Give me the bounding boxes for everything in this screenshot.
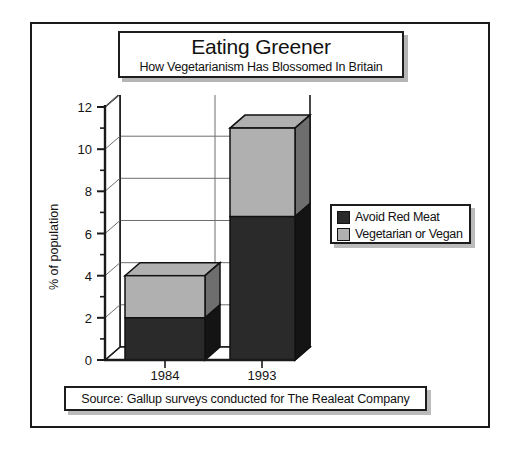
y-tick-label-10: 10 bbox=[78, 142, 92, 157]
chart-legend: Avoid Red Meat Vegetarian or Vegan bbox=[330, 204, 471, 244]
y-tick-label-8: 8 bbox=[85, 184, 92, 199]
legend-swatch-vegetarian-or-vegan bbox=[337, 228, 350, 241]
legend-swatch-avoid-red-meat bbox=[337, 211, 350, 224]
y-axis-title: % of population bbox=[47, 204, 61, 290]
bar-group-1993[interactable] bbox=[230, 115, 310, 360]
chart-plot-area: 12 10 8 6 4 2 0 % of population bbox=[40, 95, 330, 380]
y-tick-label-6: 6 bbox=[85, 227, 92, 242]
source-caption-text: Source: Gallup surveys conducted for The… bbox=[81, 392, 409, 406]
x-tick-label-1993: 1993 bbox=[248, 368, 277, 380]
legend-label-vegetarian-or-vegan: Vegetarian or Vegan bbox=[355, 227, 463, 241]
x-tick-label-1984: 1984 bbox=[151, 368, 180, 380]
x-axis: 1984 1993 bbox=[105, 360, 295, 380]
y-tick-label-2: 2 bbox=[85, 311, 92, 326]
chart-title: Eating Greener bbox=[120, 35, 402, 59]
title-box: Eating Greener How Vegetarianism Has Blo… bbox=[118, 31, 404, 78]
y-axis: 12 10 8 6 4 2 0 % of population bbox=[47, 100, 105, 368]
legend-item-vegetarian-or-vegan[interactable]: Vegetarian or Vegan bbox=[337, 226, 469, 242]
y-tick-label-0: 0 bbox=[85, 353, 92, 368]
bar-group-1984[interactable] bbox=[125, 263, 220, 360]
legend-item-avoid-red-meat[interactable]: Avoid Red Meat bbox=[337, 209, 469, 225]
chart-subtitle: How Vegetarianism Has Blossomed In Brita… bbox=[120, 59, 402, 75]
source-caption-box: Source: Gallup surveys conducted for The… bbox=[64, 386, 427, 411]
y-tick-label-12: 12 bbox=[78, 100, 92, 115]
y-tick-label-4: 4 bbox=[85, 269, 92, 284]
legend-label-avoid-red-meat: Avoid Red Meat bbox=[355, 210, 440, 224]
